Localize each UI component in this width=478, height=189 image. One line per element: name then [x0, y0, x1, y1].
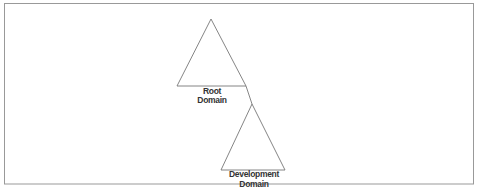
root-domain-triangle	[177, 19, 246, 86]
development-domain-label-line1: Development	[229, 169, 280, 179]
domain-diagram: Root Domain Development Domain	[0, 0, 478, 189]
root-domain-node: Root Domain	[177, 19, 246, 105]
development-domain-node: Development Domain	[221, 104, 285, 189]
development-domain-label-line2: Domain	[239, 179, 268, 189]
root-domain-label-line2: Domain	[197, 95, 226, 105]
parent-child-connector	[246, 86, 252, 104]
development-domain-triangle	[221, 104, 285, 170]
